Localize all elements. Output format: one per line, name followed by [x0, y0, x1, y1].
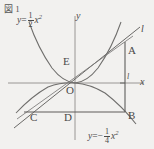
- fraction-numerator: 1: [28, 12, 34, 20]
- fraction-numerator: 1: [104, 128, 110, 136]
- point-label-d: D: [64, 112, 72, 123]
- equation-downward-sign: −: [98, 131, 103, 141]
- point-label-a: A: [128, 45, 136, 56]
- point-label-c: C: [30, 112, 37, 123]
- equation-upward-exponent: 2: [39, 13, 42, 20]
- point-label-b: B: [128, 110, 135, 121]
- equation-downward-exponent: 2: [115, 129, 118, 136]
- x-axis-label: x: [140, 77, 144, 87]
- fraction-denominator: 4: [104, 136, 110, 145]
- fraction-denominator: 2: [28, 20, 34, 29]
- fraction-one-half: 12: [28, 12, 34, 30]
- point-label-e: E: [63, 56, 70, 67]
- equation-upward-equals: =: [21, 15, 26, 25]
- y-axis-label: y: [76, 11, 80, 21]
- equation-downward-parabola: y=−14x2: [88, 128, 118, 146]
- fraction-one-quarter: 14: [104, 128, 110, 146]
- equation-upward-parabola: y=12x2: [17, 12, 42, 30]
- line-l-label: l: [141, 24, 144, 34]
- point-label-o: O: [66, 85, 74, 96]
- tick-label: l: [127, 73, 129, 81]
